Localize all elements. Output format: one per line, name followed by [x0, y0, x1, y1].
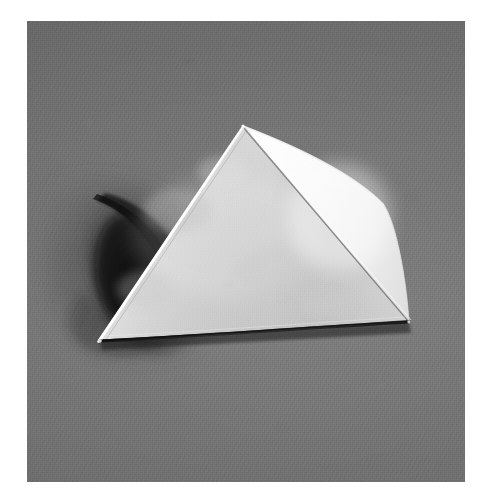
photo-print-area: [27, 21, 465, 482]
pyramid-illustration-layer: [27, 21, 465, 482]
photograph-scene: [0, 0, 487, 498]
pyramid-right-corner-point: [407, 320, 410, 323]
pyramid-body: [98, 124, 411, 350]
pyramid-apex-point: [241, 124, 244, 127]
pyramid-left-corner-point: [98, 339, 102, 343]
right-face-highlight: [287, 163, 391, 271]
